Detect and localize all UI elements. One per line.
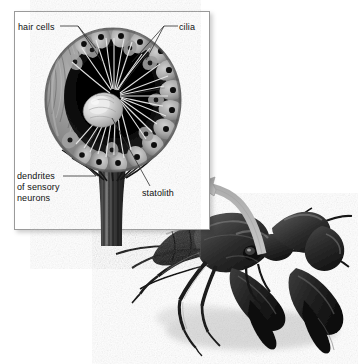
crayfish-statocyst-diagram: hair cells cilia statolith dendrites of … [0, 0, 358, 364]
label-dendrites-of-sensory-neurons: dendrites of sensory neurons [17, 171, 60, 204]
label-dendrites-line2: of sensory [17, 182, 60, 193]
label-dendrites-line3: neurons [17, 193, 60, 204]
label-hair-cells: hair cells [18, 22, 55, 33]
label-statolith: statolith [142, 188, 174, 199]
label-cilia: cilia [179, 22, 195, 33]
label-dendrites-line1: dendrites [17, 171, 60, 182]
